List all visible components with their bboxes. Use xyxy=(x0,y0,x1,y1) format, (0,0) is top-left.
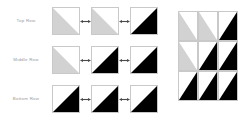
block-cell-r1c3[interactable] xyxy=(218,11,238,41)
tile-bottom-2[interactable] xyxy=(91,85,119,113)
connector-middle-1 xyxy=(80,46,91,74)
connector-bottom-1 xyxy=(80,85,91,113)
row-top: Top Row xyxy=(0,5,170,37)
row-tiles-top xyxy=(52,7,158,35)
block-cell-r2c1[interactable] xyxy=(178,41,198,71)
triangle-lower-right-icon xyxy=(92,47,118,73)
tile-top-2[interactable] xyxy=(91,7,119,35)
tile-top-1[interactable] xyxy=(52,7,80,35)
triangle-lower-right-icon xyxy=(131,86,157,112)
block-cell-r3c1[interactable] xyxy=(178,71,198,101)
double-headed-arrow-icon xyxy=(80,97,91,102)
double-headed-arrow-icon xyxy=(80,19,91,24)
connector-top-1 xyxy=(80,7,91,35)
row-tiles-middle xyxy=(52,46,158,74)
double-headed-arrow-icon xyxy=(119,19,130,24)
triangle-lower-right-icon xyxy=(92,86,118,112)
assembled-block-panel xyxy=(178,11,238,101)
block-cell-r1c2[interactable] xyxy=(198,11,218,41)
connector-top-2 xyxy=(119,7,130,35)
triangle-lower-right-icon xyxy=(219,12,237,40)
assembled-block-grid xyxy=(178,11,238,101)
row-tiles-bottom xyxy=(52,85,158,113)
tile-bottom-1[interactable] xyxy=(52,85,80,113)
tile-bottom-3[interactable] xyxy=(130,85,158,113)
triangle-lower-right-icon xyxy=(53,86,79,112)
triangle-lower-left-icon xyxy=(179,12,197,40)
tile-middle-2[interactable] xyxy=(91,46,119,74)
row-label-bottom: Bottom Row xyxy=(0,96,52,102)
triangle-lower-left-icon xyxy=(199,12,217,40)
triangle-lower-left-icon xyxy=(179,42,197,70)
triangle-lower-left-icon xyxy=(53,8,79,34)
double-headed-arrow-icon xyxy=(80,58,91,63)
tile-middle-3[interactable] xyxy=(130,46,158,74)
diagram-canvas: Top Row xyxy=(0,0,244,122)
row-label-top: Top Row xyxy=(0,18,52,24)
triangle-lower-right-icon xyxy=(219,42,237,70)
block-cell-r1c1[interactable] xyxy=(178,11,198,41)
row-middle: Middle Row xyxy=(0,44,170,76)
triangle-lower-right-icon xyxy=(131,8,157,34)
tile-top-3[interactable] xyxy=(130,7,158,35)
double-headed-arrow-icon xyxy=(119,97,130,102)
tile-middle-1[interactable] xyxy=(52,46,80,74)
block-cell-r3c3[interactable] xyxy=(218,71,238,101)
connector-middle-2 xyxy=(119,46,130,74)
block-cell-r2c2[interactable] xyxy=(198,41,218,71)
row-bottom: Bottom Row xyxy=(0,83,170,115)
rows-panel: Top Row xyxy=(0,0,170,122)
triangle-lower-right-icon xyxy=(199,42,217,70)
triangle-lower-left-icon xyxy=(92,8,118,34)
block-cell-r2c3[interactable] xyxy=(218,41,238,71)
triangle-lower-right-icon xyxy=(199,72,217,100)
triangle-lower-left-icon xyxy=(53,47,79,73)
block-cell-r3c2[interactable] xyxy=(198,71,218,101)
row-label-middle: Middle Row xyxy=(0,57,52,63)
triangle-lower-right-icon xyxy=(131,47,157,73)
triangle-lower-right-icon xyxy=(179,72,197,100)
triangle-lower-right-icon xyxy=(219,72,237,100)
double-headed-arrow-icon xyxy=(119,58,130,63)
connector-bottom-2 xyxy=(119,85,130,113)
